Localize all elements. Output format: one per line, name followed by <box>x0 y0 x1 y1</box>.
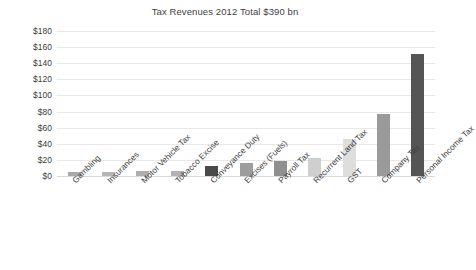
y-tick-label: $20 <box>0 155 52 165</box>
y-tick-label: $140 <box>0 58 52 68</box>
y-tick-label: $60 <box>0 123 52 133</box>
y-tick-label: $80 <box>0 107 52 117</box>
chart-title: Tax Revenues 2012 Total $390 bn <box>0 6 450 17</box>
y-tick-label: $120 <box>0 74 52 84</box>
bar <box>377 114 390 176</box>
y-axis: $0$20$40$60$80$100$120$140$160$180 <box>0 31 52 176</box>
y-tick-label: $160 <box>0 42 52 52</box>
plot-area <box>57 31 435 176</box>
x-axis: GamblingInsurancesMotor Vehicle TaxTobac… <box>57 178 435 268</box>
y-tick-label: $0 <box>0 171 52 181</box>
bars-layer <box>57 31 435 176</box>
y-tick-label: $100 <box>0 90 52 100</box>
y-tick-label: $180 <box>0 26 52 36</box>
y-tick-label: $40 <box>0 139 52 149</box>
